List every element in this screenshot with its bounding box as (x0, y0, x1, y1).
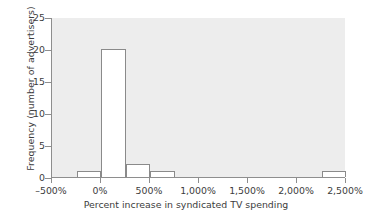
plot-panel (51, 18, 345, 178)
y-axis-tick-label: 25 (21, 13, 45, 22)
histogram-bar (101, 49, 126, 177)
y-axis-tick-label: 20 (21, 45, 45, 54)
x-axis-tick (247, 178, 248, 183)
x-axis-tick (149, 178, 150, 183)
histogram-bar (77, 171, 102, 177)
y-axis-tick (45, 18, 51, 19)
y-axis-tick-label: 15 (21, 77, 45, 86)
y-axis-tick (45, 146, 51, 147)
x-axis-tick (100, 178, 101, 183)
y-axis-tick (45, 114, 51, 115)
y-axis-tick (45, 50, 51, 51)
histogram-bar (322, 171, 347, 177)
y-axis-tick-label: 10 (21, 109, 45, 118)
bar-group (52, 18, 345, 177)
y-axis-tick-label: 5 (21, 141, 45, 150)
x-axis-tick (296, 178, 297, 183)
y-axis-tick (45, 82, 51, 83)
y-axis-title: Frequency (number of advertisers) (25, 0, 36, 184)
histogram-bar (150, 171, 175, 177)
histogram-bar (126, 164, 151, 177)
x-axis-title: Percent increase in syndicated TV spendi… (0, 199, 372, 210)
y-axis-tick-label: 0 (21, 173, 45, 182)
x-axis-tick (345, 178, 346, 183)
x-axis-tick (51, 178, 52, 183)
histogram-figure: Frequency (number of advertisers) Percen… (0, 0, 372, 217)
x-axis-tick-label: 2,500% (315, 185, 372, 196)
x-axis-tick (198, 178, 199, 183)
